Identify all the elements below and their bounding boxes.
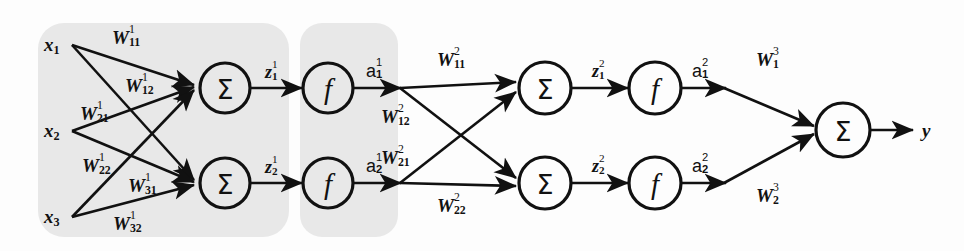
edge-a1-to-sum2-1 <box>400 82 516 88</box>
label-activation-a1-2: a21 <box>692 62 715 81</box>
node-sum-1-1-glyph: Σ <box>216 74 233 105</box>
label-weight-W21-2: W221 <box>381 148 411 169</box>
label-weight-W32-1: W132 <box>113 214 143 235</box>
label-preactivation-z2-1: z12 <box>265 158 285 178</box>
label-weight-W11-1: W111 <box>112 28 142 49</box>
network-graphics: Σ Σ f f Σ Σ f f <box>0 0 964 251</box>
node-sum-1-2-glyph: Σ <box>216 169 233 200</box>
edge-a1-to-sum2-2 <box>400 88 516 178</box>
label-weight-W22-2: W222 <box>437 196 467 217</box>
edges-layer1-to-layer2 <box>400 82 516 186</box>
node-activation-2-2-glyph: f <box>651 168 663 200</box>
edge-a2-2-to-output <box>724 134 814 183</box>
label-weight-W31-1: W131 <box>128 176 158 197</box>
label-weight-W22-1: W122 <box>82 156 112 177</box>
label-preactivation-z1-1: z11 <box>265 63 285 83</box>
label-output-y: y <box>922 121 930 140</box>
label-weight-W1-3: W31 <box>756 50 786 71</box>
label-activation-a2-2: a22 <box>692 157 715 176</box>
label-preactivation-z2-2: z22 <box>592 157 612 177</box>
edge-a2-to-sum2-1 <box>400 92 516 183</box>
label-activation-a1-1: a11 <box>366 62 389 81</box>
label-input-x1: x1 <box>44 35 59 57</box>
edge-a2-to-sum2-2 <box>400 183 516 186</box>
label-input-x3: x3 <box>44 207 59 229</box>
label-input-x2: x2 <box>44 121 59 143</box>
node-activation-2-1-glyph: f <box>651 73 663 105</box>
node-sum-2-2-glyph: Σ <box>536 169 553 200</box>
edge-a1-2-to-output <box>724 88 814 126</box>
neural-network-diagram: Σ Σ f f Σ Σ f f <box>0 0 964 251</box>
label-weight-W12-2: W212 <box>381 107 411 128</box>
label-weight-W11-2: W211 <box>437 50 467 71</box>
label-weight-W12-1: W112 <box>125 76 155 97</box>
node-sum-2-1-glyph: Σ <box>536 74 553 105</box>
label-weight-W21-1: W121 <box>80 104 110 125</box>
label-preactivation-z1-2: z21 <box>592 62 612 82</box>
node-output-sum-glyph: Σ <box>834 116 851 147</box>
label-weight-W2-3: W32 <box>756 186 786 207</box>
